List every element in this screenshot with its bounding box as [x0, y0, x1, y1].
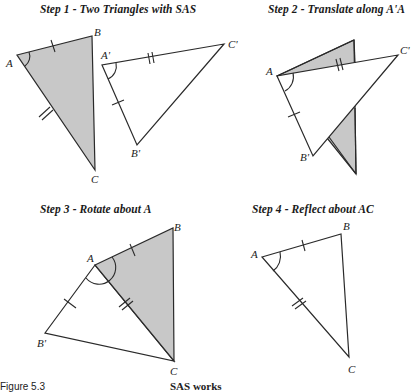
step1-label-a-prime: A'	[101, 50, 110, 61]
double-tick-ac-1	[39, 107, 50, 117]
step1-diagram	[17, 36, 224, 170]
double-tick-ac-2	[42, 110, 53, 120]
step1-label-c-prime: C'	[228, 39, 238, 50]
step2-label-c-prime: C'	[400, 45, 410, 56]
step1-label-a: A	[6, 58, 13, 69]
step2-diagram	[277, 40, 398, 174]
triangle-abc-shaded	[17, 36, 95, 170]
step1-label-c: C	[91, 174, 98, 185]
step4-diagram	[262, 234, 349, 357]
step1-label-b: B	[94, 27, 101, 38]
step2-title: Step 2 - Translate along A'A	[268, 3, 405, 15]
step3-label-b: B	[174, 222, 181, 233]
triangle-a-prime-b-prime-c-prime	[102, 44, 224, 145]
step3-title: Step 3 - Rotate about A	[40, 203, 151, 215]
triangle-abc	[262, 234, 349, 357]
step2-label-b-prime: B'	[300, 152, 309, 163]
step1-label-b-prime: B'	[131, 148, 140, 159]
figure-caption-title: SAS works	[170, 380, 222, 392]
step1-title: Step 1 - Two Triangles with SAS	[40, 3, 196, 15]
step3-label-b-prime: B'	[37, 338, 46, 349]
step3-label-c: C	[170, 366, 177, 377]
step3-label-a: A	[87, 253, 94, 264]
step4-label-b: B	[343, 221, 350, 232]
step4-title: Step 4 - Reflect about AC	[252, 203, 374, 215]
step4-label-a: A	[251, 249, 258, 260]
step4-label-c: C	[348, 364, 355, 375]
step2-label-a: A	[266, 66, 273, 77]
step3-diagram	[45, 228, 174, 361]
figure-caption: Figure 5.3	[0, 381, 45, 392]
